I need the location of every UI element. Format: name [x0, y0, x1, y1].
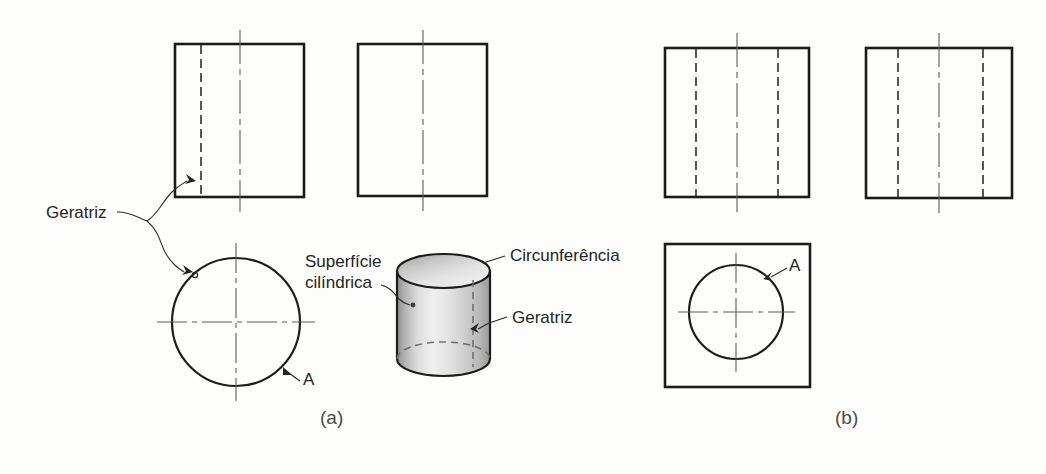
superficie-label-line1: Superfície [305, 252, 382, 271]
figure-page: A Geratriz [0, 0, 1046, 474]
technical-drawing-canvas: A Geratriz [0, 0, 1046, 474]
panel-a-side-view [358, 30, 487, 211]
geratriz-lower-arrowhead [182, 265, 193, 275]
geratriz-leader-trunk [117, 212, 147, 221]
circunferencia-callout: Circunferência [483, 246, 620, 265]
cylinder-surface-point [411, 303, 416, 308]
marker-a-circle: A [303, 370, 315, 389]
superficie-label-line2: cilíndrica [305, 273, 373, 292]
cylinder-top-ellipse [397, 254, 490, 288]
top-view-circle [172, 258, 300, 386]
panel-a-front-view [175, 30, 304, 212]
geratriz-left-label: Geratriz [46, 203, 106, 222]
panel-a-top-view: A [157, 243, 315, 401]
caption-a: (a) [320, 407, 343, 428]
geratriz-upper-arrowhead [185, 174, 196, 184]
circunferencia-leader [483, 256, 505, 263]
geratriz-leader-branch-upper [147, 181, 187, 221]
panel-b-side-view [866, 33, 1012, 213]
marker-a-square: A [789, 256, 801, 275]
circunferencia-label: Circunferência [510, 246, 620, 265]
geratriz-leader-branch-lower [147, 221, 184, 272]
superficie-callout: Superfície cilíndrica [305, 252, 410, 305]
panel-b-front-view [665, 33, 809, 212]
cylinder-pictorial [397, 254, 490, 376]
caption-b: (b) [835, 407, 858, 428]
geratriz-callout-group: Geratriz [46, 174, 198, 278]
geratriz-cylinder-label: Geratriz [512, 308, 572, 327]
panel-b-top-view: A [665, 244, 810, 387]
b-marker-leader [771, 268, 787, 277]
